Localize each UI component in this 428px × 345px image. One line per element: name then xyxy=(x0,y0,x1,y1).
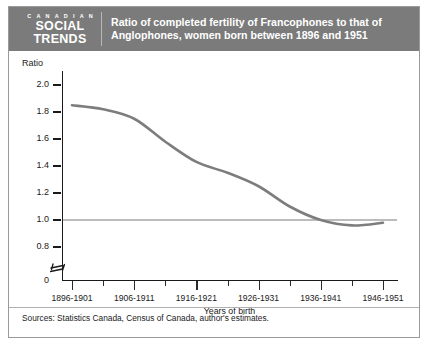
x-tick-major xyxy=(72,281,73,290)
y-tick-mark xyxy=(53,138,61,140)
x-tick-major xyxy=(196,281,197,290)
logo-line-2: TRENDS xyxy=(19,33,101,46)
x-tick-minor xyxy=(103,281,104,286)
x-tick-label: 1926-1931 xyxy=(228,293,290,303)
sources-note: Sources: Statistics Canada, Census of Ca… xyxy=(22,313,269,323)
y-tick-label: 1.8 xyxy=(23,106,49,116)
x-tick-minor xyxy=(352,281,353,286)
y-tick-label: 2.0 xyxy=(23,79,49,89)
plot-region: 1896-19011906-19111916-19211926-19311936… xyxy=(62,71,397,281)
y-tick-mark xyxy=(53,165,61,167)
publication-logo: C A N A D I A N SOCIAL TRENDS xyxy=(9,13,101,45)
chart-title-line-2: Anglophones, women born between 1896 and… xyxy=(111,29,413,43)
y-tick-mark xyxy=(53,219,61,221)
fertility-ratio-line xyxy=(62,71,398,281)
x-tick-label: 1896-1901 xyxy=(41,293,103,303)
x-tick-minor xyxy=(228,281,229,286)
x-tick-label: 1906-1911 xyxy=(103,293,165,303)
y-tick-label: 1.6 xyxy=(23,133,49,143)
series-path xyxy=(72,105,383,225)
y-axis-title: Ratio xyxy=(22,58,43,68)
x-tick-major xyxy=(383,281,384,290)
y-tick-label: 0.8 xyxy=(23,241,49,251)
figure-root: C A N A D I A N SOCIAL TRENDS Ratio of c… xyxy=(0,0,428,345)
y-tick-label: 1.0 xyxy=(23,214,49,224)
chart-title: Ratio of completed fertility of Francoph… xyxy=(102,16,419,43)
y-tick-mark xyxy=(53,84,61,86)
y-tick-mark xyxy=(53,192,61,194)
y-tick-label: 1.2 xyxy=(23,187,49,197)
x-tick-minor xyxy=(165,281,166,286)
x-tick-minor xyxy=(290,281,291,286)
x-tick-label: 1936-1941 xyxy=(290,293,352,303)
y-tick-label: 1.4 xyxy=(23,160,49,170)
x-tick-label: 1946-1951 xyxy=(352,293,414,303)
x-tick-major xyxy=(134,281,135,290)
y-tick-mark xyxy=(53,246,61,248)
header-banner: C A N A D I A N SOCIAL TRENDS Ratio of c… xyxy=(9,7,419,51)
chart-area: Ratio 2.01.81.61.41.21.00.8 0 1896-19011… xyxy=(9,51,419,304)
x-tick-label: 1916-1921 xyxy=(165,293,227,303)
x-tick-major xyxy=(321,281,322,290)
y-tick-mark xyxy=(53,111,61,113)
logo-line-1: SOCIAL xyxy=(19,20,101,33)
chart-title-line-1: Ratio of completed fertility of Francoph… xyxy=(111,16,413,30)
y-axis-origin-label: 0 xyxy=(23,275,49,285)
x-tick-major xyxy=(259,281,260,290)
footer-divider xyxy=(9,307,419,308)
